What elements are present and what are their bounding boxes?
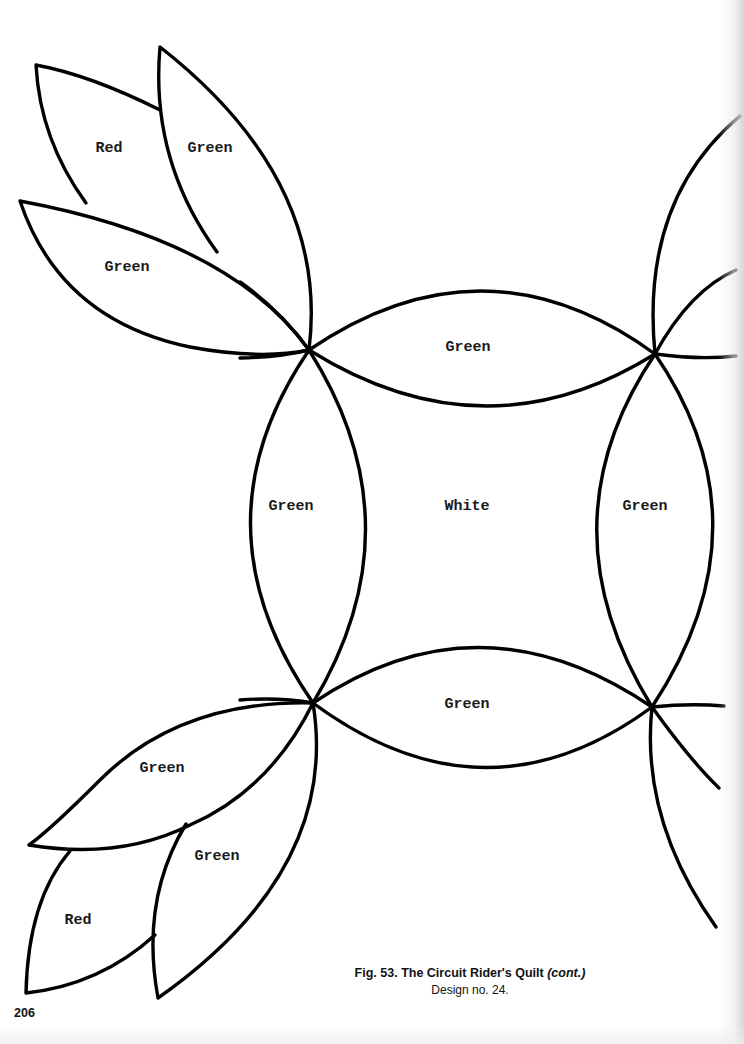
label-top-left-red: Red — [95, 140, 122, 157]
quilt-pattern-diagram: Red Green Green Green Green White Green … — [0, 0, 744, 1044]
petal-top-left-green-upper — [159, 47, 312, 350]
arc-left-green — [250, 350, 365, 703]
label-center: White — [444, 498, 489, 515]
label-arc-top: Green — [445, 339, 490, 356]
page-edge-shadow — [718, 0, 744, 1044]
petal-top-left-green-lower — [20, 201, 309, 354]
label-arc-left: Green — [268, 498, 313, 515]
label-top-left-green-upper: Green — [187, 140, 232, 157]
page-number: 206 — [14, 1006, 35, 1020]
label-bottom-left-green-lower: Green — [194, 848, 239, 865]
caption-subtitle: Design no. 24. — [340, 982, 600, 999]
label-bottom-left-red: Red — [64, 912, 91, 929]
label-arc-right: Green — [622, 498, 667, 515]
caption-title-main: Fig. 53. The Circuit Rider's Quilt — [355, 966, 548, 980]
label-arc-bottom: Green — [444, 696, 489, 713]
petal-top-left-red — [36, 65, 160, 203]
petal-bottom-right-partial — [650, 707, 716, 927]
arc-right-green — [597, 354, 713, 707]
petal-bottom-right-partial — [652, 705, 724, 707]
petal-bottom-right-partial — [652, 707, 719, 788]
label-top-left-green-lower: Green — [104, 259, 149, 276]
caption-title-suffix: (cont.) — [547, 966, 585, 980]
caption-title: Fig. 53. The Circuit Rider's Quilt (cont… — [340, 964, 600, 982]
figure-caption: Fig. 53. The Circuit Rider's Quilt (cont… — [340, 964, 600, 999]
page-bottom-shadow — [0, 1026, 744, 1044]
label-bottom-left-green-upper: Green — [139, 760, 184, 777]
